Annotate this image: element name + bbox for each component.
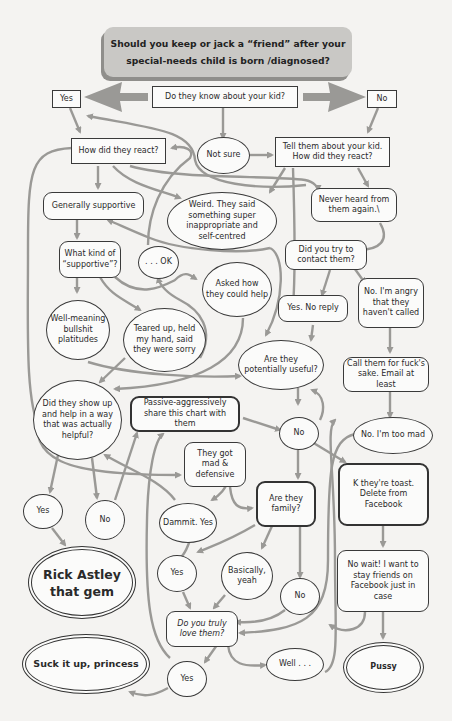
node-well-meaning: Well-meaning bullshit platitudes — [46, 300, 110, 360]
node-know-kid: Do they know about your kid? — [152, 86, 298, 108]
node-tell-them: Tell them about your kid. How did they r… — [275, 137, 390, 167]
node-mad-defensive: They got mad & defensive — [184, 442, 246, 487]
node-no-left: No — [85, 500, 125, 540]
node-basically: Basically, yeah — [221, 552, 273, 600]
node-yes-no-reply: Yes. No reply — [278, 295, 348, 322]
node-suck-it-up: Suck it up, princess — [22, 634, 150, 694]
node-not-sure: Not sure — [197, 137, 250, 174]
node-potentially-useful: Are they potentially useful? — [238, 340, 324, 390]
node-toast: K they're toast. Delete from Facebook — [338, 463, 429, 526]
node-family: Are they family? — [256, 481, 316, 527]
node-well: Well . . . — [266, 648, 324, 681]
node-passive-aggressive: Passive-aggressively share this chart wi… — [130, 396, 240, 432]
node-yes-love: Yes — [167, 661, 207, 697]
node-weird: Weird. They said something super inappro… — [167, 192, 277, 250]
node-yes-family: Yes — [157, 555, 197, 592]
node-no-family: No — [280, 578, 320, 615]
node-asked-help: Asked how they could help — [202, 262, 272, 317]
node-no-top: No — [367, 90, 397, 108]
node-no-wait: No wait! I want to stay friends on Faceb… — [337, 550, 429, 612]
node-rick-astley: Rick Astley that gem — [28, 546, 136, 619]
node-angry: No. I'm angry that they haven't called — [358, 278, 424, 328]
node-no-mid: No — [279, 417, 319, 450]
chart-title: Should you keep or jack a “friend” after… — [104, 27, 352, 77]
node-call-them: Call them for fuck's sake. Email at leas… — [343, 357, 429, 392]
node-ok: . . . OK — [138, 246, 179, 279]
node-how-react: How did they react? — [71, 138, 166, 164]
node-try-contact: Did you try to contact them? — [285, 240, 367, 270]
node-what-kind: What kind of “supportive”? — [59, 241, 121, 278]
flowchart: Should you keep or jack a “friend” after… — [0, 0, 452, 721]
node-never-heard: Never heard from them again.\ — [311, 188, 397, 222]
node-truly-love: Do you truly love them? — [166, 611, 238, 647]
node-yes-left: Yes — [23, 494, 63, 529]
node-pussy: Pussy — [343, 642, 424, 693]
node-generally-supportive: Generally supportive — [43, 192, 144, 220]
node-teared-up: Teared up, held my hand, said they were … — [123, 308, 206, 372]
big-arrow-left — [84, 82, 148, 112]
node-yes-top: Yes — [52, 90, 81, 108]
node-show-up: Did they show up and help in a way that … — [33, 380, 122, 460]
node-too-mad: No. I'm too mad — [353, 417, 433, 454]
node-dammit: Dammit. Yes — [159, 503, 217, 543]
big-arrow-right — [303, 82, 366, 112]
